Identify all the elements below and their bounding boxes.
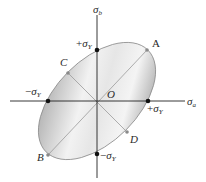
intercept-dot-top <box>95 48 100 53</box>
point-label-B: B <box>37 152 44 163</box>
subscript: Y <box>112 155 116 163</box>
intercept-label-right: +σY <box>147 103 163 116</box>
intercept-label-left: −σY <box>25 86 41 99</box>
origin-label: O <box>107 89 115 100</box>
intercept-dot-bottom <box>95 152 100 157</box>
subscript: a <box>192 101 196 109</box>
axis-label-sigma-b: σb <box>93 4 102 17</box>
yield-ellipse-diagram: σb σa O +σY −σY −σY +σY A B C D <box>0 0 206 182</box>
point-label-D: D <box>130 134 138 145</box>
intercept-label-top: +σY <box>76 38 92 51</box>
point-dot-B <box>46 153 50 157</box>
subscript: Y <box>88 43 92 51</box>
point-dot-A <box>145 48 149 52</box>
point-dot-D <box>125 130 129 134</box>
subscript: Y <box>37 91 41 99</box>
subscript: b <box>98 9 102 17</box>
intercept-label-bottom: −σY <box>100 150 116 163</box>
intercept-dot-left <box>46 99 51 104</box>
point-label-C: C <box>60 57 67 68</box>
point-label-A: A <box>152 38 160 49</box>
axis-label-sigma-a: σa <box>187 96 196 109</box>
subscript: Y <box>159 108 163 116</box>
point-dot-C <box>66 71 70 75</box>
